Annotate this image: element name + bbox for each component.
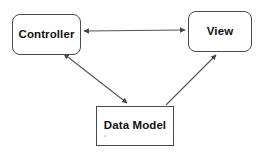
node-controller[interactable]: Controller	[12, 14, 81, 55]
node-view-label: View	[207, 26, 233, 38]
diagram-canvas: Controller View Data Model	[0, 0, 261, 158]
edge-controller-view	[84, 30, 185, 31]
edge-datamodel-view	[166, 55, 216, 105]
edge-controller-datamodel	[64, 54, 127, 103]
node-data-model[interactable]: Data Model	[96, 106, 174, 146]
node-view[interactable]: View	[188, 11, 252, 52]
node-controller-label: Controller	[19, 29, 75, 41]
scan-artifact-speck	[104, 135, 106, 137]
node-data-model-label: Data Model	[104, 120, 166, 132]
